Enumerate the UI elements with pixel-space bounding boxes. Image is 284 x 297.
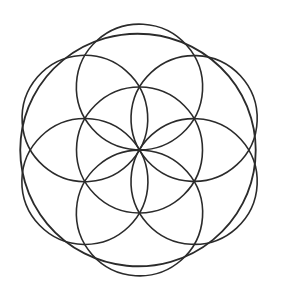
seed-of-life-figure: [0, 0, 284, 297]
geometry-canvas: [0, 0, 284, 297]
background: [0, 0, 284, 297]
